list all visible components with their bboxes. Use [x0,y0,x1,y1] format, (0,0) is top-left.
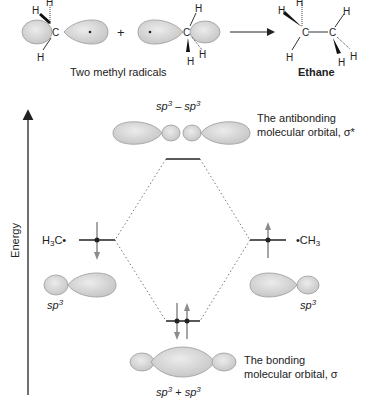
energy-axis-label: Energy [9,223,22,258]
product-label: Ethane [298,66,335,79]
bonding-orbital [130,347,236,377]
bonding-label-line1: The bonding [244,354,305,367]
atom-h: H [32,5,39,16]
bonding-level [166,303,200,340]
right-sp3-label: sp3 [300,296,316,312]
ethane-structure [283,3,350,54]
left-sp3-orbital [44,273,116,297]
bonding-label-line2: molecular orbital, σ [244,368,338,381]
left-fragment-label: H3C• [42,234,66,250]
right-atomic-level [250,222,286,258]
atom-c: C [302,27,309,38]
atom-h: H [343,6,350,17]
atom-h: H [278,5,285,16]
atom-h: H [187,56,194,67]
atom-c: C [329,27,336,38]
left-sp3-label: sp3 [47,296,63,312]
bonding-combo-label: sp3 + sp3 [156,383,201,399]
atom-c: C [183,27,190,38]
antibonding-orbital [113,122,250,145]
atom-h: H [199,49,206,60]
atom-h: H [46,0,53,8]
right-fragment-label: •CH3 [296,234,320,250]
orbital-diagram-graphics [0,0,369,402]
atom-h: H [338,57,345,68]
antibonding-combo-label: sp3 – sp3 [156,97,200,113]
atom-h: H [350,51,357,62]
antibonding-label-line2: molecular orbital, σ* [257,126,355,139]
plus-sign: + [117,27,125,38]
correlation-lines [115,159,250,321]
methyl-radical-right [138,13,220,52]
atom-h: H [37,52,44,63]
antibonding-label-line1: The antibonding [257,112,336,125]
atom-h: H [195,3,202,14]
right-sp3-orbital [250,273,319,297]
atom-h: H [296,0,303,8]
left-atomic-level [79,222,115,260]
atom-h: H [286,52,293,63]
atom-c: C [52,27,59,38]
reactant-label: Two methyl radicals [70,66,167,79]
